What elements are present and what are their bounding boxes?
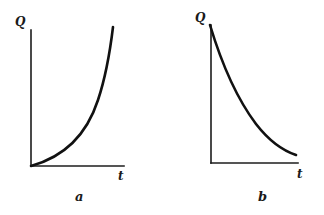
panel-a-growth-curve bbox=[31, 27, 113, 166]
panel-a-y-axis-label: Q bbox=[15, 15, 26, 29]
panel-b-decay-curve bbox=[210, 25, 296, 155]
panel-b: Q t b bbox=[195, 11, 303, 204]
figure: Q t a Q t b bbox=[0, 0, 324, 215]
panel-b-caption: b bbox=[258, 189, 267, 204]
panel-b-y-axis-label: Q bbox=[195, 11, 206, 25]
panel-a-caption: a bbox=[75, 189, 83, 204]
panel-a-x-axis-label: t bbox=[118, 169, 124, 183]
panel-a: Q t a bbox=[15, 15, 124, 204]
panel-b-x-axis-label: t bbox=[297, 167, 303, 181]
